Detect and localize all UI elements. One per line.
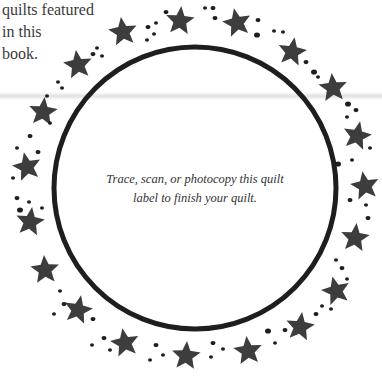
star-icon bbox=[344, 121, 372, 149]
dot-icon bbox=[213, 16, 218, 20]
dot-icon bbox=[221, 347, 225, 350]
star-icon bbox=[279, 37, 307, 65]
star-icon bbox=[30, 255, 59, 283]
dot-icon bbox=[161, 353, 165, 356]
dot-icon bbox=[164, 10, 169, 14]
dot-icon bbox=[108, 348, 112, 351]
dot-icon bbox=[28, 134, 33, 138]
star-icon bbox=[63, 50, 91, 78]
dot-icon bbox=[209, 355, 213, 358]
dot-icon bbox=[368, 146, 372, 149]
star-icon bbox=[166, 6, 194, 34]
star-icon bbox=[233, 336, 261, 364]
dot-icon bbox=[254, 32, 260, 37]
dot-icon bbox=[154, 21, 158, 24]
dot-icon bbox=[329, 307, 333, 310]
star-icon bbox=[318, 73, 346, 101]
dot-icon bbox=[345, 277, 349, 280]
star-icon bbox=[172, 341, 201, 369]
dot-icon bbox=[320, 304, 324, 307]
dot-icon bbox=[283, 328, 288, 332]
dot-icon bbox=[211, 341, 216, 345]
dot-icon bbox=[15, 146, 19, 149]
star-icon bbox=[110, 328, 138, 356]
dot-icon bbox=[354, 108, 359, 112]
dot-icon bbox=[36, 150, 41, 154]
dot-icon bbox=[256, 18, 261, 22]
dot-icon bbox=[52, 312, 56, 315]
dot-icon bbox=[90, 343, 94, 346]
dot-icon bbox=[15, 196, 20, 200]
dot-icon bbox=[11, 176, 15, 179]
star-icon bbox=[350, 171, 378, 199]
dot-icon bbox=[316, 75, 320, 78]
dot-icon bbox=[58, 289, 62, 292]
dot-icon bbox=[146, 25, 151, 29]
dot-icon bbox=[281, 30, 285, 33]
label-instructions-line: label to finish your quilt. bbox=[95, 189, 295, 208]
dot-icon bbox=[203, 6, 207, 9]
dot-icon bbox=[145, 38, 149, 41]
dot-icon bbox=[273, 341, 277, 344]
dot-icon bbox=[154, 343, 159, 347]
dot-icon bbox=[345, 101, 351, 106]
star-icon bbox=[108, 17, 136, 45]
dot-icon bbox=[265, 328, 271, 333]
dot-icon bbox=[348, 198, 353, 202]
dot-icon bbox=[60, 86, 64, 89]
dot-icon bbox=[45, 94, 49, 97]
dot-icon bbox=[345, 115, 349, 118]
dot-icon bbox=[91, 52, 96, 56]
dot-icon bbox=[100, 54, 104, 57]
dot-icon bbox=[272, 29, 276, 32]
dot-icon bbox=[27, 200, 31, 203]
dot-icon bbox=[334, 258, 338, 261]
dot-icon bbox=[56, 80, 60, 83]
dot-icon bbox=[102, 336, 107, 340]
star-icon bbox=[321, 276, 349, 305]
dot-icon bbox=[211, 6, 216, 10]
star-icon bbox=[287, 312, 315, 340]
dot-icon bbox=[364, 203, 368, 206]
dot-icon bbox=[311, 69, 317, 74]
dot-icon bbox=[40, 206, 44, 209]
star-icon bbox=[341, 223, 369, 251]
dot-icon bbox=[152, 32, 156, 35]
dot-icon bbox=[350, 158, 354, 161]
dot-icon bbox=[17, 207, 23, 212]
dot-icon bbox=[304, 60, 309, 64]
dot-icon bbox=[95, 46, 99, 49]
star-icon bbox=[222, 8, 250, 36]
star-icon bbox=[29, 97, 57, 125]
dot-icon bbox=[48, 121, 52, 124]
dot-icon bbox=[91, 317, 96, 321]
dot-icon bbox=[314, 312, 319, 316]
star-icon bbox=[12, 152, 40, 180]
label-instructions: Trace, scan, or photocopy this quilt lab… bbox=[95, 170, 295, 208]
dot-icon bbox=[366, 216, 371, 220]
dot-icon bbox=[148, 358, 152, 361]
dot-icon bbox=[62, 302, 67, 306]
label-instructions-line: Trace, scan, or photocopy this quilt bbox=[95, 170, 295, 189]
star-icon bbox=[65, 295, 93, 323]
dot-icon bbox=[340, 266, 345, 270]
